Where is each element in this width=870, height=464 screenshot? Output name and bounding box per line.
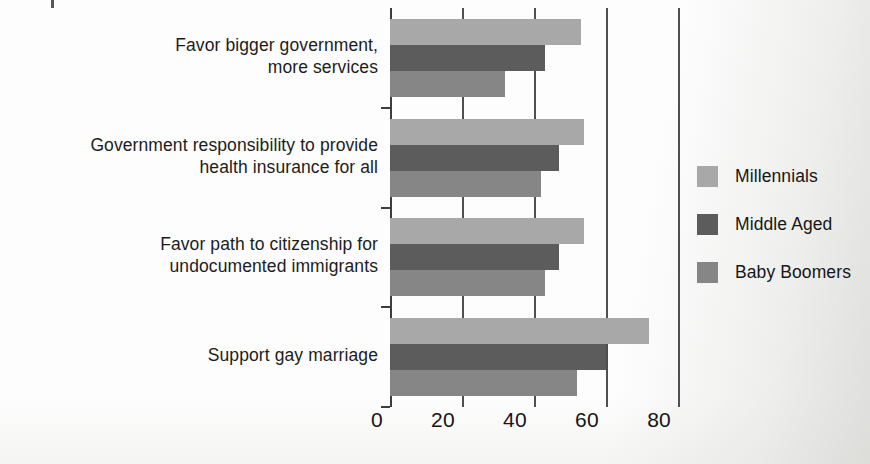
legend-item[interactable]: Millennials [697,165,867,187]
y-axis-tick [381,306,390,308]
x-tick-label-0: 0 [371,408,390,432]
x-axis-tick-labels: 020406080 [390,408,700,438]
x-tick-label-20: 20 [431,408,462,432]
category-label-line: Favor bigger government, [0,34,378,56]
bar-middle-aged[interactable] [390,145,559,171]
chart-page: Favor bigger government,more servicesGov… [0,0,870,464]
category-label: Government responsibility to provideheal… [0,134,378,178]
category-label: Support gay marriage [0,344,378,366]
bar-baby-boomers[interactable] [390,270,545,296]
category-label-line: health insurance for all [0,156,378,178]
bar-baby-boomers[interactable] [390,370,577,396]
bar-baby-boomers[interactable] [390,71,505,97]
bar-group [390,108,690,208]
category-label: Favor path to citizenship forundocumente… [0,233,378,277]
x-tick-label-60: 60 [575,408,606,432]
y-axis-tick [381,107,390,109]
category-label-line: Government responsibility to provide [0,134,378,156]
legend-swatch-icon [697,214,718,235]
legend-swatch-icon [697,166,718,187]
category-label: Favor bigger government,more services [0,34,378,78]
bar-middle-aged[interactable] [390,45,545,71]
legend-label: Baby Boomers [735,262,851,283]
category-label-line: Favor path to citizenship for [0,233,378,255]
category-label-line: Support gay marriage [0,344,378,366]
bar-baby-boomers[interactable] [390,171,541,197]
bar-group [390,307,690,407]
chart-legend: MillennialsMiddle AgedBaby Boomers [697,165,867,309]
legend-label: Middle Aged [735,214,832,235]
category-label-column: Favor bigger government,more servicesGov… [0,8,378,407]
bar-millennials[interactable] [390,218,584,244]
bar-millennials[interactable] [390,318,649,344]
y-axis-tick [381,207,390,209]
x-tick-label-80: 80 [647,408,678,432]
bar-middle-aged[interactable] [390,344,606,370]
bar-group [390,208,690,308]
legend-item[interactable]: Baby Boomers [697,261,867,283]
scan-artifact-speck [51,0,54,8]
bar-group [390,8,690,108]
legend-swatch-icon [697,262,718,283]
x-tick-label-40: 40 [503,408,534,432]
bar-millennials[interactable] [390,19,581,45]
legend-item[interactable]: Middle Aged [697,213,867,235]
category-label-line: undocumented immigrants [0,255,378,277]
bar-millennials[interactable] [390,119,584,145]
legend-label: Millennials [735,166,818,187]
bar-middle-aged[interactable] [390,244,559,270]
category-label-line: more services [0,56,378,78]
plot-area [390,8,690,407]
